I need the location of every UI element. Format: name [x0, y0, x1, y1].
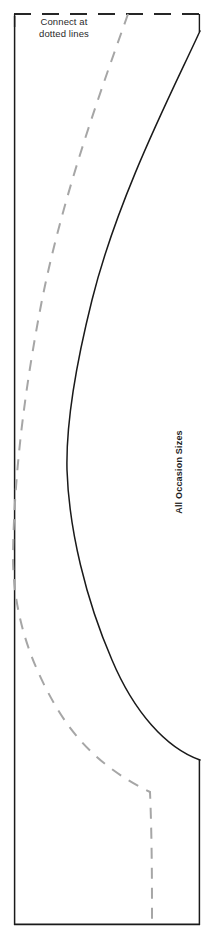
paper-background [0, 0, 218, 943]
pattern-drawing [0, 0, 218, 943]
right-edge-size-label: All Occasion Sizes [174, 430, 184, 514]
pattern-canvas: Connect at dotted lines All Occasion Siz… [0, 0, 218, 943]
